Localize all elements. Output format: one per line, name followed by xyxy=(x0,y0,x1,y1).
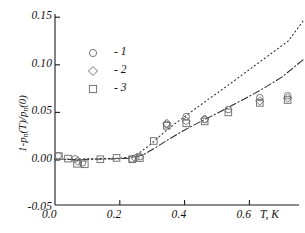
marker-circle xyxy=(201,116,208,123)
y-tick-label-3: 0.10 xyxy=(31,57,52,69)
data-point-series-1 xyxy=(201,116,208,123)
y-title-sub-1: n xyxy=(21,134,30,138)
y-tick-label-2: 0.05 xyxy=(31,104,52,116)
y-tick-label-4: 0.15 xyxy=(31,9,52,21)
model-curves xyxy=(55,19,304,159)
marker-diamond xyxy=(89,67,98,76)
data-point-series-3 xyxy=(151,138,158,145)
y-title-mid: (T)/p xyxy=(16,112,28,134)
plot-canvas xyxy=(0,0,305,233)
legend-markers xyxy=(89,49,98,92)
y-tick-label-0: -0.05 xyxy=(28,200,52,212)
axis-lines xyxy=(55,14,299,205)
x-tick-label-3: 0.6 xyxy=(236,208,251,220)
x-tick-label-1: 0.2 xyxy=(107,208,122,220)
y-axis-title-text: 1-pn(T)/pn(0) xyxy=(16,95,30,152)
x-tick-label-2: 0.4 xyxy=(172,208,187,220)
curve-dotted-model xyxy=(55,19,304,159)
curve-dash-dot-model xyxy=(55,59,304,160)
marker-square xyxy=(151,138,158,145)
legend-entry-3: - 3 xyxy=(114,81,126,93)
legend-entry-1: - 1 xyxy=(114,45,126,57)
y-title-sub-2: n xyxy=(21,108,30,112)
legend-entry-2: - 2 xyxy=(114,63,126,75)
marker-square xyxy=(89,85,96,92)
x-axis-title-text: T, K xyxy=(260,208,279,220)
marker-circle xyxy=(89,49,96,56)
y-title-lead: 1-p xyxy=(16,137,28,152)
figure-scatter-plot: 1-pn(T)/pn(0) 0.00.20.40.6 -0.050.000.05… xyxy=(0,0,305,233)
data-points xyxy=(55,92,292,167)
y-tick-label-1: 0.00 xyxy=(31,152,52,164)
y-title-tail: (0) xyxy=(16,95,28,108)
